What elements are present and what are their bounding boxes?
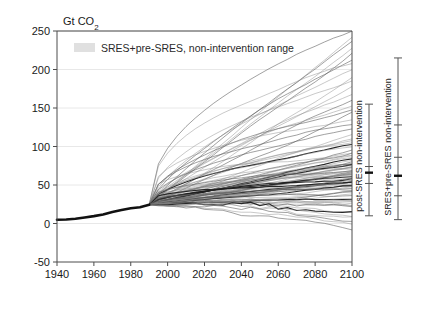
legend-swatch bbox=[74, 43, 95, 52]
ytick-label-150: 150 bbox=[32, 102, 50, 114]
chart-figure: -500501001502002501940196019802000202020… bbox=[0, 0, 432, 310]
xtick-label-2060: 2060 bbox=[266, 268, 290, 280]
xtick-label-2100: 2100 bbox=[340, 268, 364, 280]
xtick-label-2020: 2020 bbox=[192, 268, 216, 280]
ytick-label-50: 50 bbox=[38, 179, 50, 191]
xtick-label-1960: 1960 bbox=[82, 268, 106, 280]
emissions-scenario-chart: -500501001502002501940196019802000202020… bbox=[0, 0, 432, 310]
xtick-label-2000: 2000 bbox=[155, 268, 179, 280]
xtick-label-1980: 1980 bbox=[119, 268, 143, 280]
historical-emissions-line bbox=[57, 205, 149, 220]
xtick-label-1940: 1940 bbox=[45, 268, 69, 280]
scenario-lines-group bbox=[149, 31, 352, 230]
scenario-line bbox=[149, 205, 352, 230]
legend-label: SRES+pre-SRES, non-intervention range bbox=[101, 42, 294, 54]
y-axis-unit-title: Gt CO2 bbox=[63, 15, 99, 32]
range-label-2: SRES+pre-SRES non-intervention bbox=[383, 78, 393, 215]
ytick-label-200: 200 bbox=[32, 64, 50, 76]
xtick-label-2080: 2080 bbox=[303, 268, 327, 280]
ytick-label-250: 250 bbox=[32, 25, 50, 37]
ytick-label-0: 0 bbox=[44, 218, 50, 230]
range-label-1: post-SRES non-intervention bbox=[354, 100, 364, 212]
ytick-label--50: -50 bbox=[34, 256, 50, 268]
ytick-label-100: 100 bbox=[32, 141, 50, 153]
xtick-label-2040: 2040 bbox=[229, 268, 253, 280]
